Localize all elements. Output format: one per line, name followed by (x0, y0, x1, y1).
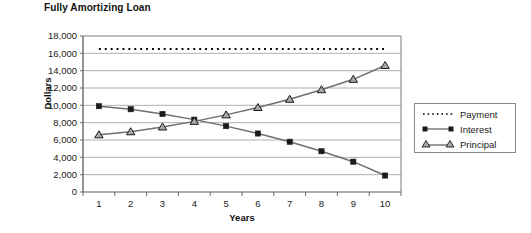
svg-text:2,000: 2,000 (53, 169, 77, 180)
svg-text:6,000: 6,000 (53, 134, 77, 145)
legend-label-payment: Payment (460, 109, 498, 120)
legend-item-interest: Interest (415, 121, 515, 137)
legend-label-interest: Interest (460, 124, 492, 135)
svg-text:4: 4 (192, 198, 197, 209)
svg-text:18,000: 18,000 (48, 30, 77, 41)
svg-text:2: 2 (128, 198, 133, 209)
axis-lines (83, 36, 401, 192)
chart-legend: Payment Interest Principal (414, 103, 516, 153)
legend-swatch-interest-icon (420, 122, 456, 136)
svg-text:4,000: 4,000 (53, 152, 77, 163)
legend-swatch-principal-icon (420, 137, 456, 151)
svg-text:14,000: 14,000 (48, 65, 77, 76)
legend-item-payment: Payment (415, 106, 515, 122)
svg-text:8,000: 8,000 (53, 117, 77, 128)
svg-text:1: 1 (96, 198, 101, 209)
svg-text:10: 10 (380, 198, 391, 209)
y-axis-tick-labels: 02,0004,0006,0008,00010,00012,00014,0001… (48, 30, 83, 197)
svg-text:8: 8 (319, 198, 324, 209)
svg-text:9: 9 (351, 198, 356, 209)
data-series (95, 49, 390, 178)
x-axis-ticks (83, 192, 401, 196)
chart-container: Fully Amortizing Loan Dollars 02,0004,00… (0, 0, 531, 233)
gridlines (83, 36, 401, 175)
svg-text:3: 3 (160, 198, 165, 209)
svg-text:0: 0 (72, 186, 77, 197)
legend-item-principal: Principal (415, 136, 515, 152)
svg-text:7: 7 (287, 198, 292, 209)
svg-text:6: 6 (255, 198, 260, 209)
legend-label-principal: Principal (460, 139, 496, 150)
legend-swatch-payment-icon (420, 107, 456, 121)
svg-text:5: 5 (223, 198, 228, 209)
x-axis-tick-labels: 12345678910 (96, 198, 390, 209)
series-principal (95, 61, 390, 137)
series-interest (96, 104, 387, 179)
svg-text:12,000: 12,000 (48, 82, 77, 93)
svg-text:10,000: 10,000 (48, 100, 77, 111)
x-axis-title: Years (82, 212, 402, 223)
svg-text:16,000: 16,000 (48, 48, 77, 59)
